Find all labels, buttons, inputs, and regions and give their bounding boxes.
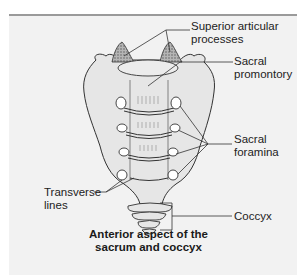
label-line: Transverse [44,186,101,198]
label-superior-articular-processes: Superior articular processes [191,20,279,45]
label-coccyx: Coccyx [234,210,272,223]
caption-line: sacrum and coccyx [0,241,297,254]
label-line: Sacral [234,55,267,67]
label-line: Sacral [234,133,267,145]
label-sacral-promontory: Sacral promontory [234,55,292,80]
figure-caption: Anterior aspect of thesacrum and coccyx [0,228,297,254]
label-line: lines [44,199,68,211]
sacrum-body [84,54,215,204]
promontory [118,60,178,76]
label-line: promontory [234,68,292,80]
label-line: processes [191,33,243,45]
label-line: Superior articular [191,20,279,32]
label-line: foramina [234,146,279,158]
label-transverse-lines: Transverse lines [44,186,101,211]
label-sacral-foramina: Sacral foramina [234,133,279,158]
right-articular-process [160,42,182,62]
caption-line: Anterior aspect of the [0,228,297,241]
